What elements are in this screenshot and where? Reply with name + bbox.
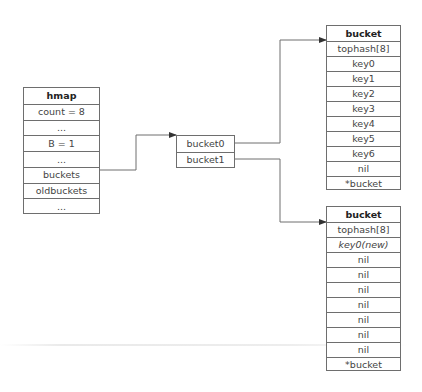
bucket-field-key: key3 (327, 101, 400, 116)
edge-hmap-buckets-to-bucket-array (100, 135, 176, 170)
edge-bucket1-to-bucket (235, 159, 326, 222)
bucket-array-entry-bucket0: bucket0 (177, 136, 234, 152)
bucket-field-key-new: key0(new) (327, 237, 400, 252)
bucket-array: bucket0 bucket1 (176, 135, 235, 168)
bucket-field-nil: nil (327, 161, 400, 176)
bucket-field-nil: nil (327, 267, 400, 282)
edge-bucket0-to-bucket (235, 40, 326, 143)
hmap-field-count: count = 8 (24, 104, 99, 120)
hmap-field-ellipsis: ... (24, 198, 99, 214)
bucket-field-nil: nil (327, 312, 400, 327)
bucket-field-nil: nil (327, 252, 400, 267)
bucket-title: bucket (327, 207, 400, 222)
bucket-field-overflow: *bucket (327, 176, 400, 191)
hmap-title: hmap (24, 88, 99, 104)
hmap-field-ellipsis: ... (24, 120, 99, 136)
bucket-field-nil: nil (327, 282, 400, 297)
bucket-field-nil: nil (327, 327, 400, 342)
bucket-struct: bucket tophash[8] key0 key1 key2 key3 ke… (326, 25, 401, 190)
bucket-field-nil: nil (327, 297, 400, 312)
bucket-field-tophash: tophash[8] (327, 222, 400, 237)
bucket-field-overflow: *bucket (327, 357, 400, 372)
bucket-struct: bucket tophash[8] key0(new) nil nil nil … (326, 206, 401, 371)
bucket-field-key: key5 (327, 131, 400, 146)
bucket-field-key: key2 (327, 86, 400, 101)
bucket-field-key: key0 (327, 56, 400, 71)
hmap-field-b: B = 1 (24, 135, 99, 151)
hmap-field-buckets: buckets (24, 167, 99, 183)
bucket-field-key: key1 (327, 71, 400, 86)
bucket-title: bucket (327, 26, 400, 41)
bucket-field-tophash: tophash[8] (327, 41, 400, 56)
bucket-field-nil: nil (327, 342, 400, 357)
hmap-struct: hmap count = 8 ... B = 1 ... buckets old… (23, 87, 100, 214)
bucket-field-key: key6 (327, 146, 400, 161)
hmap-field-ellipsis: ... (24, 151, 99, 167)
bucket-array-entry-bucket1: bucket1 (177, 152, 234, 168)
bucket-field-key: key4 (327, 116, 400, 131)
hmap-field-oldbuckets: oldbuckets (24, 183, 99, 199)
